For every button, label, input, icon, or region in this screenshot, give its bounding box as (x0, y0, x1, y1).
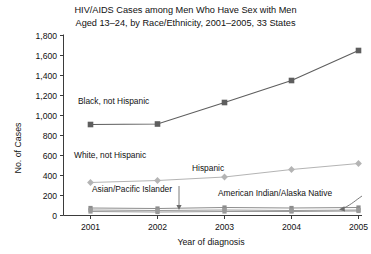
data-point-marker (221, 174, 228, 181)
y-tick-label: 1,200 (35, 91, 57, 101)
data-point-marker (155, 121, 161, 127)
y-tick-label: 1,800 (35, 31, 57, 41)
x-tick-label: 2001 (81, 222, 100, 232)
y-tick-label: 1,400 (35, 71, 57, 81)
series-label-american-indian-alaska-native: American Indian/Alaska Native (218, 188, 332, 198)
data-point-marker (289, 78, 295, 84)
y-tick-label: 1,600 (35, 51, 57, 61)
y-tick-label: 1,000 (35, 111, 57, 121)
series-label-hispanic: Hispanic (192, 163, 224, 173)
x-tick-label: 2004 (282, 222, 301, 232)
y-tick-label: 0 (52, 211, 57, 221)
x-axis-label: Year of diagnosis (177, 237, 245, 247)
asian-pacific-islander-leader (176, 186, 181, 210)
y-axis-label: No. of Cases (13, 122, 23, 173)
series-label-black-not-hispanic: Black, not Hispanic (78, 96, 149, 106)
series-line (91, 51, 359, 125)
chart-figure: HIV/AIDS Cases among Men Who Have Sex wi… (0, 0, 371, 254)
y-axis-ticks (60, 36, 64, 216)
data-point-marker (356, 48, 362, 54)
data-point-marker (88, 209, 92, 213)
y-tick-label: 200 (43, 191, 58, 201)
series-labels: Black, not Hispanic White, not Hispanic … (74, 96, 332, 198)
data-point-marker (222, 209, 226, 213)
data-point-marker (355, 160, 362, 167)
series-label-white-not-hispanic: White, not Hispanic (74, 150, 146, 160)
y-axis-tick-labels: 1,800 1,600 1,400 1,200 1,000 800 600 40… (35, 31, 57, 221)
y-tick-label: 400 (43, 171, 58, 181)
series-hispanic (87, 160, 362, 186)
data-point-marker (222, 100, 228, 106)
chart-canvas: 1,800 1,600 1,400 1,200 1,000 800 600 40… (0, 0, 371, 254)
x-axis-ticks (91, 216, 359, 220)
x-tick-label: 2005 (349, 222, 368, 232)
series-label-asian-pacific-islander: Asian/Pacific Islander (92, 184, 172, 194)
data-point-marker (289, 209, 293, 213)
y-tick-label: 800 (43, 131, 58, 141)
x-tick-label: 2002 (148, 222, 167, 232)
series-black-not-hispanic (88, 48, 362, 128)
x-axis-tick-labels: 2001 2002 2003 2004 2005 (81, 222, 368, 232)
data-point-marker (356, 209, 360, 213)
y-tick-label: 600 (43, 151, 58, 161)
data-point-marker (88, 122, 94, 128)
x-tick-label: 2003 (215, 222, 234, 232)
data-point-marker (288, 166, 295, 173)
data-point-marker (154, 177, 161, 184)
data-point-marker (155, 210, 159, 214)
series-american-indian-alaska-native (88, 209, 360, 214)
